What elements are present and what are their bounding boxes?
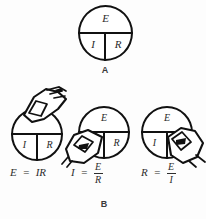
formula-equals: = bbox=[77, 166, 90, 178]
wheel-vertical-divider bbox=[166, 131, 168, 159]
formula-denominator: R bbox=[94, 175, 103, 186]
formula-denominator: I bbox=[167, 175, 176, 186]
formula-numerator: E bbox=[94, 162, 103, 173]
wheel-vertical-divider bbox=[36, 133, 38, 161]
formula-resistance: R = E I bbox=[141, 162, 176, 185]
formula-lhs: E bbox=[10, 166, 17, 178]
ohms-law-figure: E I R A I R bbox=[0, 0, 206, 219]
wheel-label-current: I bbox=[82, 39, 104, 50]
panel-a: E I R A bbox=[0, 0, 206, 80]
panel-b: I R E = IR bbox=[0, 85, 206, 219]
panel-b-caption: B bbox=[91, 200, 117, 209]
formula-lhs: I bbox=[71, 166, 75, 178]
wheel-label-voltage: E bbox=[78, 13, 133, 24]
wheel-label-resistance: R bbox=[106, 138, 127, 148]
wheel-label-resistance: R bbox=[107, 39, 129, 50]
ohms-wheel-b1: I R bbox=[11, 108, 63, 161]
panel-a-caption: A bbox=[92, 66, 118, 75]
wheel-label-resistance: R bbox=[39, 140, 60, 150]
wheel-label-voltage: E bbox=[78, 113, 130, 123]
ohms-wheel-a: E I R bbox=[78, 5, 133, 61]
formula-fraction: E I bbox=[167, 162, 176, 185]
formula-voltage: E = IR bbox=[10, 167, 46, 178]
wheel-vertical-divider bbox=[103, 131, 105, 159]
formula-current: I = E R bbox=[71, 162, 103, 185]
formula-fraction: E R bbox=[94, 162, 103, 185]
formula-rhs: IR bbox=[36, 166, 46, 178]
ohms-wheel-b2: E R bbox=[78, 106, 130, 159]
formula-equals: = bbox=[150, 166, 163, 178]
ohms-wheel-b3: E I bbox=[141, 106, 193, 159]
formula-lhs: R bbox=[141, 166, 148, 178]
wheel-vertical-divider bbox=[104, 32, 106, 61]
wheel-label-current: I bbox=[144, 138, 165, 148]
formula-numerator: E bbox=[167, 162, 176, 173]
wheel-label-current: I bbox=[14, 140, 35, 150]
formula-equals: = bbox=[19, 166, 32, 178]
wheel-label-voltage: E bbox=[141, 113, 193, 123]
